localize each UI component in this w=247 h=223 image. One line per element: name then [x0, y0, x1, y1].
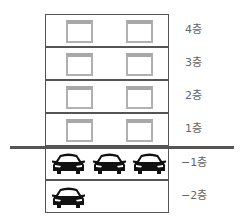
floor-b1 — [45, 147, 169, 180]
window-icon — [126, 53, 153, 76]
window-icon — [126, 20, 153, 43]
car-icon — [92, 153, 127, 175]
window-icon — [66, 86, 93, 109]
car-icon — [51, 153, 86, 175]
floor-label-3: 3층 — [185, 57, 202, 69]
window-icon — [66, 53, 93, 76]
floor-1 — [45, 113, 169, 146]
floor-b2 — [45, 180, 169, 213]
floor-label-4: 4층 — [185, 24, 202, 36]
floor-3 — [45, 47, 169, 80]
window-icon — [126, 86, 153, 109]
ground-line — [10, 146, 234, 149]
car-icon — [51, 187, 86, 209]
window-icon — [126, 119, 153, 142]
window-icon — [66, 20, 93, 43]
floor-2 — [45, 80, 169, 113]
floor-4 — [45, 14, 169, 47]
floor-label-b2: −2층 — [181, 190, 207, 202]
car-icon — [132, 153, 167, 175]
floor-label-2: 2층 — [185, 90, 202, 102]
floor-label-b1: −1층 — [181, 157, 207, 169]
window-icon — [66, 119, 93, 142]
floor-label-1: 1층 — [185, 123, 202, 135]
building — [45, 14, 170, 213]
